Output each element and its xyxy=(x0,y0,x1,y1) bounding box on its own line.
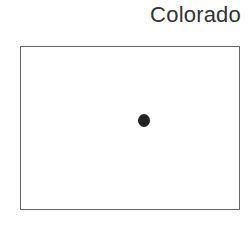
state-outline xyxy=(20,46,240,210)
state-name-label: Colorado xyxy=(150,2,241,28)
capital-marker-dot xyxy=(138,114,150,127)
